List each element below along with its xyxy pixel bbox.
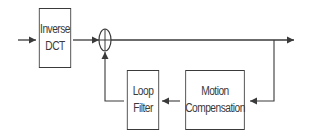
inverse-dct-label-line2: DCT [45, 38, 64, 55]
motion-compensation-block: Motion Compensation [185, 70, 245, 130]
summing-junction-icon [99, 29, 111, 51]
loop-filter-label-line2: Filter [133, 100, 153, 117]
loop-filter-label-line1: Loop [133, 83, 154, 100]
inverse-dct-block: Inverse DCT [39, 8, 71, 68]
loop-filter-block: Loop Filter [127, 70, 159, 130]
feedback-to-motion-compensation-arrow [250, 40, 274, 101]
inverse-dct-label-line1: Inverse [40, 21, 70, 38]
motion-compensation-label-line1: Motion [201, 83, 229, 100]
loop-filter-to-adder-arrow [105, 52, 124, 101]
motion-compensation-label-line2: Compensation [185, 100, 245, 117]
